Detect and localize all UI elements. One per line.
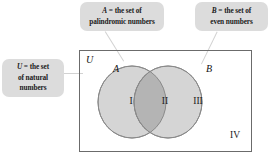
region-label-ii: II	[157, 96, 173, 106]
callout-a-eq: = the set of	[107, 6, 141, 15]
region-label-iv: IV	[226, 130, 244, 140]
callout-b-line2: even numbers	[210, 17, 252, 26]
label-universe: U	[86, 54, 93, 65]
region-label-i: I	[124, 96, 138, 106]
venn-diagram-figure: A = the set of palindromic numbers B = t…	[0, 0, 271, 166]
callout-u-line3: numbers	[20, 83, 47, 92]
callout-set-b: B = the set of even numbers	[195, 2, 268, 31]
label-circle-a: A	[113, 63, 119, 74]
callout-u-line2: of natural	[18, 73, 48, 82]
label-circle-b: B	[206, 63, 212, 74]
callout-b-eq: = the set of	[217, 6, 251, 15]
callout-set-a: A = the set of palindromic numbers	[80, 2, 164, 31]
callout-u-eq: = the set	[22, 62, 49, 71]
callout-universe: U = the set of natural numbers	[2, 59, 64, 97]
region-label-iii: III	[188, 96, 208, 106]
callout-a-line2: palindromic numbers	[89, 17, 154, 26]
